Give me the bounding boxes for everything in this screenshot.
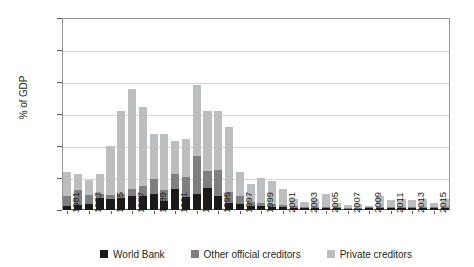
bar-group[interactable] (365, 18, 373, 210)
x-tick-label: 2003 (309, 192, 319, 213)
bar-group[interactable] (203, 18, 211, 210)
bar-segment-private (117, 111, 125, 194)
legend-item[interactable]: Other official creditors (191, 249, 301, 260)
x-tick-mark (175, 211, 176, 214)
bar-group[interactable] (85, 18, 93, 210)
x-tick-mark (154, 211, 155, 214)
bar-group[interactable] (322, 18, 330, 210)
bar-segment-private (106, 146, 114, 195)
x-tick-label: 2005 (330, 192, 340, 213)
bar-group[interactable] (279, 18, 287, 210)
bar-group[interactable] (257, 18, 265, 210)
x-tick-label: 1999 (265, 192, 275, 213)
bar-group[interactable] (150, 18, 158, 210)
legend-item[interactable]: Private creditors (327, 249, 412, 260)
bar-group[interactable] (193, 18, 201, 210)
x-tick-label: 1991 (179, 192, 189, 213)
bar-segment-other-official (171, 174, 179, 188)
bar-group[interactable] (182, 18, 190, 210)
bar-segment-private (139, 107, 147, 186)
bar-group[interactable] (430, 18, 438, 210)
bar-group[interactable] (344, 18, 352, 210)
bar-group[interactable] (268, 18, 276, 210)
bar-segment-other-official (193, 156, 201, 194)
bar-segment-private (214, 111, 222, 170)
bar-segment-other-official (203, 171, 211, 188)
bar-group[interactable] (106, 18, 114, 210)
x-tick-mark (89, 211, 90, 214)
legend-swatch-icon (100, 250, 108, 258)
x-tick-label: 1997 (244, 192, 254, 213)
bar-group[interactable] (441, 18, 449, 210)
bar-group[interactable] (236, 18, 244, 210)
bar-group[interactable] (376, 18, 384, 210)
x-tick-mark (197, 211, 198, 214)
bar-group[interactable] (387, 18, 395, 210)
bar-group[interactable] (214, 18, 222, 210)
x-tick-mark (240, 211, 241, 214)
x-tick-label: 1989 (158, 192, 168, 213)
legend-label: World Bank (113, 249, 165, 260)
bar-segment-private (171, 141, 179, 174)
x-tick-mark (305, 211, 306, 214)
x-axis-labels: 1981198319851987198919911993199519971999… (62, 211, 450, 245)
bar-group[interactable] (139, 18, 147, 210)
x-tick-mark (391, 211, 392, 214)
bar-group[interactable] (117, 18, 125, 210)
x-tick-label: 1995 (222, 192, 232, 213)
x-tick-mark (412, 211, 413, 214)
x-tick-label: 2009 (373, 192, 383, 213)
x-tick-label: 2001 (287, 192, 297, 213)
x-tick-label: 2013 (416, 192, 426, 213)
legend-item[interactable]: World Bank (100, 249, 165, 260)
bar-segment-private (74, 174, 82, 190)
bar-segment-private (160, 134, 168, 189)
bars-layer (62, 18, 450, 210)
x-tick-mark (261, 211, 262, 214)
bar-group[interactable] (408, 18, 416, 210)
bar-group[interactable] (333, 18, 341, 210)
x-tick-label: 1993 (201, 192, 211, 213)
bar-segment-private (203, 111, 211, 171)
bar-group[interactable] (354, 18, 362, 210)
bar-group[interactable] (74, 18, 82, 210)
bar-segment-private (193, 85, 201, 156)
x-tick-mark (369, 211, 370, 214)
legend-swatch-icon (191, 250, 199, 258)
x-tick-mark (111, 211, 112, 214)
x-tick-mark (348, 211, 349, 214)
x-tick-mark (218, 211, 219, 214)
y-axis-title: % of GDP (18, 53, 29, 143)
bar-segment-private (225, 127, 233, 193)
x-tick-mark (67, 211, 68, 214)
bar-group[interactable] (300, 18, 308, 210)
bar-group[interactable] (171, 18, 179, 210)
x-tick-label: 1983 (93, 192, 103, 213)
legend-swatch-icon (327, 250, 335, 258)
bar-segment-private (128, 89, 136, 189)
x-tick-label: 1985 (115, 192, 125, 213)
bar-group[interactable] (96, 18, 104, 210)
x-tick-label: 2007 (352, 192, 362, 213)
bar-group[interactable] (397, 18, 405, 210)
legend-label: Other official creditors (204, 249, 301, 260)
x-tick-mark (132, 211, 133, 214)
bar-group[interactable] (247, 18, 255, 210)
x-tick-mark (326, 211, 327, 214)
x-tick-label: 2011 (395, 193, 405, 213)
bar-group[interactable] (63, 18, 71, 210)
bar-segment-private (182, 139, 190, 177)
bar-group[interactable] (419, 18, 427, 210)
bar-group[interactable] (311, 18, 319, 210)
chart-container: % of GDP 0.01.02.03.04.05.06.0 198119831… (0, 0, 474, 267)
x-tick-label: 1981 (71, 192, 81, 213)
x-tick-mark (434, 211, 435, 214)
bar-group[interactable] (290, 18, 298, 210)
bar-segment-private (150, 134, 158, 179)
x-tick-mark (283, 211, 284, 214)
bar-group[interactable] (128, 18, 136, 210)
bar-group[interactable] (160, 18, 168, 210)
x-tick-label: 2015 (438, 192, 448, 213)
bar-group[interactable] (225, 18, 233, 210)
chart-legend: World BankOther official creditorsPrivat… (62, 246, 450, 262)
